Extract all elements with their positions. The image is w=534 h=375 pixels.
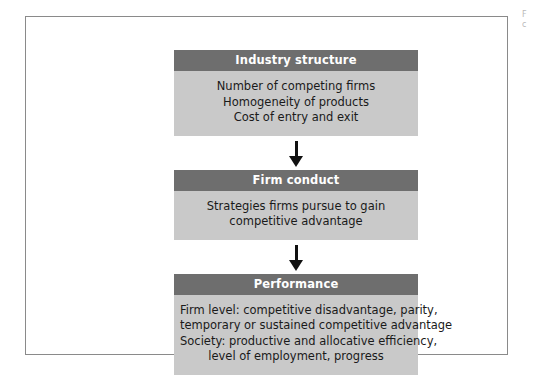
flow-node-firm-conduct: Firm conduct Strategies firms pursue to …: [174, 170, 418, 240]
edge-caption-fragment: F c: [522, 10, 534, 30]
flow-node-body-line: level of employment, progress: [180, 349, 412, 365]
figure-frame: Industry structure Number of competing f…: [25, 16, 508, 355]
arrow-head: [289, 156, 303, 167]
flow-node-body: Firm level: competitive disadvantage, pa…: [174, 295, 418, 375]
flow-node-body-line: Society: productive and allocative effic…: [180, 334, 412, 350]
arrow-down-icon: [174, 240, 418, 274]
diagram-flow-stack: Industry structure Number of competing f…: [174, 50, 418, 375]
flow-node-body-line: competitive advantage: [180, 214, 412, 230]
flow-node-body-line: Firm level: competitive disadvantage, pa…: [180, 303, 412, 319]
flow-node-body-line: Strategies firms pursue to gain: [180, 199, 412, 215]
edge-caption-line-1: F: [522, 10, 534, 20]
flow-node-body-line: Number of competing firms: [180, 79, 412, 95]
flow-node-body: Strategies firms pursue to gain competit…: [174, 191, 418, 240]
flow-node-header: Firm conduct: [174, 170, 418, 191]
flow-node-header: Industry structure: [174, 50, 418, 71]
arrow-down-icon: [174, 136, 418, 170]
flow-node-performance: Performance Firm level: competitive disa…: [174, 274, 418, 375]
flow-node-body: Number of competing firms Homogeneity of…: [174, 71, 418, 136]
edge-caption-line-2: c: [522, 20, 534, 30]
flow-node-industry-structure: Industry structure Number of competing f…: [174, 50, 418, 136]
flow-node-body-line: Homogeneity of products: [180, 95, 412, 111]
flow-node-body-line: Cost of entry and exit: [180, 110, 412, 126]
flow-node-header: Performance: [174, 274, 418, 295]
arrow-head: [289, 260, 303, 271]
flow-node-body-line: temporary or sustained competitive advan…: [180, 318, 412, 334]
